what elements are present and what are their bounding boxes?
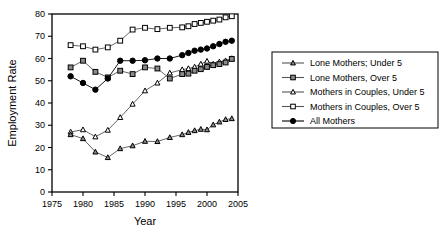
- x-tick-label: 1975: [42, 199, 62, 209]
- legend: Lone Mothers; Under 5Lone Mothers, Over …: [272, 52, 438, 128]
- data-point: [167, 76, 172, 81]
- data-point: [211, 18, 216, 23]
- data-point: [130, 72, 135, 77]
- data-point: [180, 72, 185, 77]
- legend-label: Mothers in Couples, Under 5: [310, 87, 425, 97]
- x-tick-label: 1980: [73, 199, 93, 209]
- legend-marker: [290, 118, 295, 123]
- data-point: [155, 56, 160, 61]
- data-point: [105, 45, 110, 50]
- legend-marker: [291, 75, 296, 80]
- x-tick-label: 2000: [197, 199, 217, 209]
- data-point: [118, 68, 123, 73]
- data-point: [155, 27, 160, 32]
- data-point: [229, 38, 234, 43]
- data-point: [217, 17, 222, 22]
- data-point: [80, 80, 85, 85]
- data-point: [93, 69, 98, 74]
- x-axis: 1975198019851990199520002005: [42, 192, 248, 209]
- x-tick-label: 1985: [104, 199, 124, 209]
- data-point: [180, 52, 185, 57]
- data-point: [143, 25, 148, 30]
- y-tick-label: 60: [35, 54, 45, 64]
- legend-label: Lone Mothers; Under 5: [310, 58, 402, 68]
- data-point: [204, 46, 209, 51]
- data-point: [68, 43, 73, 48]
- data-point: [211, 63, 216, 68]
- data-point: [192, 48, 197, 53]
- data-point: [198, 21, 203, 26]
- data-point: [130, 58, 135, 63]
- data-point: [198, 67, 203, 72]
- data-point: [211, 44, 216, 49]
- data-point: [118, 58, 123, 63]
- data-point: [180, 25, 185, 30]
- data-point: [118, 38, 123, 43]
- data-point: [142, 58, 147, 63]
- data-point: [198, 47, 203, 52]
- data-point: [81, 58, 86, 63]
- x-tick-label: 1990: [135, 199, 155, 209]
- legend-label: Lone Mothers, Over 5: [310, 73, 397, 83]
- data-point: [205, 19, 210, 24]
- employment-rate-line-chart: 0102030405060708019751980198519901995200…: [0, 0, 445, 240]
- plot-frame: [52, 14, 238, 192]
- legend-label: Mothers in Couples, Over 5: [310, 102, 420, 112]
- data-point: [192, 68, 197, 73]
- data-point: [186, 24, 191, 29]
- data-point: [223, 15, 228, 20]
- data-point: [167, 25, 172, 30]
- y-axis: 01020304050607080: [35, 9, 52, 197]
- data-point: [155, 66, 160, 71]
- data-point: [186, 71, 191, 76]
- data-point: [192, 22, 197, 27]
- y-tick-label: 70: [35, 31, 45, 41]
- legend-label: All Mothers: [310, 116, 356, 126]
- data-point: [217, 62, 222, 67]
- data-point: [130, 27, 135, 32]
- x-tick-label: 2005: [228, 199, 248, 209]
- data-point: [217, 41, 222, 46]
- y-tick-label: 20: [35, 143, 45, 153]
- data-point: [223, 60, 228, 65]
- y-tick-label: 80: [35, 9, 45, 19]
- data-point: [205, 65, 210, 70]
- y-tick-label: 50: [35, 76, 45, 86]
- y-tick-label: 40: [35, 98, 45, 108]
- data-point: [229, 57, 234, 62]
- data-point: [93, 47, 98, 52]
- y-tick-label: 30: [35, 120, 45, 130]
- data-point: [68, 65, 73, 70]
- x-tick-label: 1995: [166, 199, 186, 209]
- data-point: [105, 76, 110, 81]
- data-point: [186, 50, 191, 55]
- data-point: [68, 74, 73, 79]
- data-point: [167, 56, 172, 61]
- y-tick-label: 10: [35, 165, 45, 175]
- data-point: [93, 87, 98, 92]
- data-point: [223, 39, 228, 44]
- data-point: [81, 44, 86, 49]
- legend-marker: [291, 104, 296, 109]
- data-point: [143, 65, 148, 70]
- data-point: [229, 14, 234, 19]
- x-axis-title: Year: [134, 215, 157, 227]
- y-axis-title: Employment Rate: [6, 59, 18, 146]
- y-tick-label: 0: [40, 187, 45, 197]
- chart-figure: 0102030405060708019751980198519901995200…: [0, 0, 445, 240]
